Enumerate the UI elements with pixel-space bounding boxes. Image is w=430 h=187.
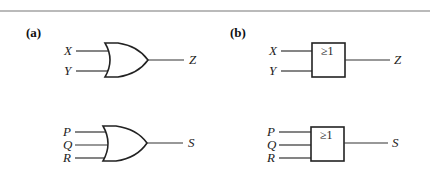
- input-label-r: R: [62, 150, 71, 165]
- panel-label-b: (b): [230, 25, 246, 40]
- input-label-x: X: [63, 43, 73, 58]
- iec-or-gate-b2: P Q R ≥1 S: [266, 124, 399, 165]
- gate-symbol: ≥1: [320, 128, 333, 142]
- output-label-z: Z: [189, 52, 197, 67]
- or-gate-a2: P Q R S: [62, 124, 195, 165]
- logic-gate-figure: (a) X Y Z P Q R S (b) X Y ≥1 Z P Q: [0, 0, 430, 187]
- panel-label-a: (a): [26, 25, 41, 40]
- output-label-s: S: [188, 135, 195, 150]
- gate-symbol: ≥1: [321, 44, 334, 58]
- input-label-y: Y: [64, 63, 73, 78]
- output-label-z: Z: [394, 52, 402, 67]
- output-label-s: S: [392, 135, 399, 150]
- input-label-x: X: [268, 43, 278, 58]
- or-gate-a1: X Y Z: [63, 43, 197, 78]
- iec-or-gate-b1: X Y ≥1 Z: [268, 43, 402, 78]
- input-label-r: R: [266, 150, 275, 165]
- or-gate-icon: [105, 43, 148, 77]
- input-label-y: Y: [269, 63, 278, 78]
- or-gate-icon: [103, 126, 147, 161]
